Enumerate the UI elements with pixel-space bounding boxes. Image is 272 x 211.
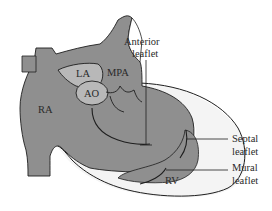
label-rv: RV — [165, 175, 179, 186]
label-ra: RA — [38, 104, 53, 115]
label-anterior-2: leaflet — [132, 48, 158, 59]
vena-cava-pipe — [22, 56, 36, 72]
label-mural-1: Mural — [232, 162, 258, 173]
label-septal-2: leaflet — [232, 146, 258, 157]
label-mpa: MPA — [107, 67, 129, 78]
label-ao: AO — [84, 88, 100, 99]
label-septal-1: Septal — [232, 133, 258, 144]
label-anterior-1: Anterior — [124, 36, 160, 47]
label-mural-2: leaflet — [232, 175, 258, 186]
heart-diagram: RA LA AO MPA RV Anterior leaflet Septal … — [0, 0, 272, 211]
label-la: LA — [76, 68, 90, 79]
